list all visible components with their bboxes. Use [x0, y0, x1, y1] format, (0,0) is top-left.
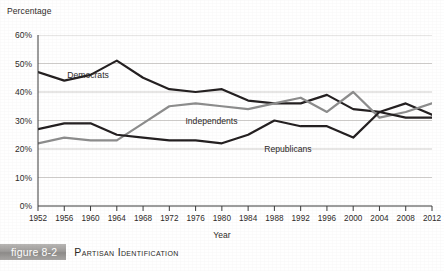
- x-tick-label: 1992: [292, 214, 310, 223]
- series-label-republicans: Republicans: [264, 144, 311, 154]
- y-tick-label: 30%: [2, 116, 32, 126]
- x-tick-label: 1956: [55, 214, 73, 223]
- y-axis-title: Percentage: [7, 6, 51, 16]
- figure-container: Percentage 0%10%20%30%40%50%60% 19521956…: [0, 0, 444, 271]
- x-tick-label: 1968: [134, 214, 152, 223]
- y-tick-label: 50%: [2, 59, 32, 69]
- x-tick-label: 1960: [81, 214, 99, 223]
- y-tick-label: 10%: [2, 173, 32, 183]
- x-tick-label: 1980: [213, 214, 231, 223]
- x-axis-ticks: [38, 206, 432, 211]
- x-tick-label: 1976: [186, 214, 204, 223]
- y-tick-label: 0%: [2, 201, 32, 211]
- x-tick-label: 1972: [160, 214, 178, 223]
- x-tick-label: 2004: [370, 214, 388, 223]
- x-tick-label: 2012: [423, 214, 441, 223]
- series-label-democrats: Democrats: [67, 70, 109, 80]
- x-tick-label: 2008: [397, 214, 415, 223]
- figure-number-badge: figure 8-2: [0, 244, 66, 260]
- series-label-independents: Independents: [185, 116, 237, 126]
- gridlines: [38, 35, 432, 178]
- figure-caption: figure 8-2 Partisan Identification: [0, 244, 444, 260]
- x-tick-label: 1952: [29, 214, 47, 223]
- figure-caption-title: Partisan Identification: [74, 246, 178, 258]
- x-tick-label: 1964: [108, 214, 126, 223]
- x-tick-label: 2000: [344, 214, 362, 223]
- y-tick-label: 60%: [2, 30, 32, 40]
- y-tick-label: 20%: [2, 144, 32, 154]
- x-tick-label: 1984: [239, 214, 257, 223]
- x-axis-title: Year: [0, 230, 444, 240]
- y-tick-label: 40%: [2, 87, 32, 97]
- x-tick-label: 1996: [318, 214, 336, 223]
- x-tick-label: 1988: [265, 214, 283, 223]
